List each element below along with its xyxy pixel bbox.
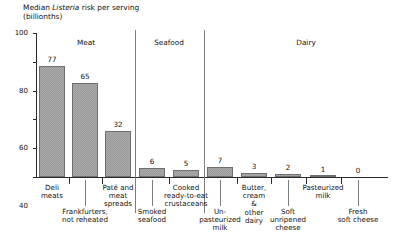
y-axis-tick: 100 <box>33 33 37 34</box>
category-separator-tick <box>102 178 103 184</box>
category-label: Frankfurters,not reheated <box>61 208 109 224</box>
chart-plot-area: 020406080100 MeatSeafoodDairy 7765326573… <box>36 33 388 178</box>
x-axis-line <box>36 177 388 178</box>
bar <box>275 174 301 177</box>
bar <box>241 173 267 177</box>
bar-value-label: 0 <box>356 167 361 175</box>
category-label: Pasteurizedmilk <box>299 184 347 200</box>
bar-value-label: 32 <box>113 121 122 129</box>
category-label: Softunripenedcheese <box>264 208 312 233</box>
bar-value-label: 5 <box>184 160 189 168</box>
bar-value-label: 77 <box>47 56 56 64</box>
category-label: Smokedseafood <box>128 208 176 224</box>
label-leader-line <box>288 180 289 206</box>
category-separator-tick <box>69 178 70 184</box>
category-separator-tick <box>306 178 307 184</box>
category-separator-tick <box>271 178 272 184</box>
category-label: Freshsoft cheese <box>334 208 382 224</box>
label-leader-line <box>220 180 221 206</box>
bar <box>207 167 233 177</box>
bar-value-label: 6 <box>150 158 155 166</box>
category-label: Delimeats <box>28 184 76 200</box>
category-separator-tick <box>237 178 238 184</box>
y-axis-tick-label: 40 <box>19 202 28 209</box>
bar <box>39 66 65 177</box>
title-units: (billionths) <box>23 12 62 21</box>
label-leader-line <box>152 180 153 206</box>
y-axis-tick: 20 <box>33 148 37 149</box>
page-title: Median Listeria risk per serving (billio… <box>23 3 353 22</box>
category-separator-tick <box>169 178 170 184</box>
title-text-before: Median <box>23 3 52 12</box>
y-axis-tick: 80 <box>33 62 37 63</box>
bar <box>310 175 336 177</box>
bar <box>173 170 199 177</box>
title-text-italic: Listeria <box>52 3 79 12</box>
y-axis-tick-label: 60 <box>19 145 28 152</box>
bar-value-label: 65 <box>80 73 89 81</box>
bar-value-label: 7 <box>218 157 223 165</box>
label-leader-line <box>85 180 86 206</box>
category-label: Cookedready-to-eatcrustaceans <box>162 184 210 209</box>
bar <box>139 168 165 177</box>
y-axis-tick: 60 <box>33 91 37 92</box>
y-axis-tick: 40 <box>33 119 37 120</box>
y-axis-tick-label: 80 <box>19 87 28 94</box>
category-separator-tick <box>341 178 342 184</box>
y-axis-tick-label: 100 <box>15 30 28 37</box>
bar-value-label: 1 <box>321 166 326 174</box>
bar-value-label: 3 <box>252 163 257 171</box>
bar <box>72 83 98 177</box>
bar-value-label: 2 <box>286 164 291 172</box>
section-header-meat: Meat <box>77 39 95 47</box>
bar <box>105 131 131 177</box>
y-axis-tick: 0 <box>33 177 37 178</box>
title-text-after: risk per serving <box>79 3 139 12</box>
section-header-seafood: Seafood <box>154 39 184 47</box>
category-label: Paté andmeatspreads <box>94 184 142 209</box>
section-header-dairy: Dairy <box>296 39 315 47</box>
y-axis-line <box>36 33 37 178</box>
label-leader-line <box>358 180 359 206</box>
